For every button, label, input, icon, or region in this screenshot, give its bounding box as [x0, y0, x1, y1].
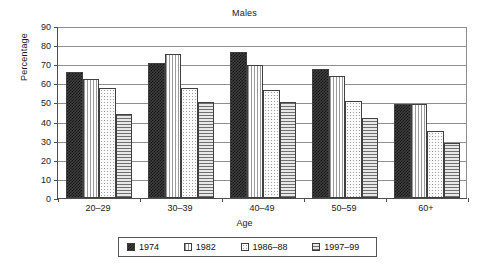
bar — [230, 52, 247, 198]
bar — [247, 65, 264, 198]
bar — [411, 104, 428, 198]
bar — [394, 104, 411, 198]
y-axis-tick-label: 20 — [41, 156, 51, 165]
bar — [181, 88, 198, 198]
plot-area: 0102030405060708090 — [57, 27, 467, 199]
chart-title: Males — [0, 8, 489, 18]
x-axis-tick — [58, 198, 59, 202]
bar-group — [222, 27, 304, 198]
bar-group — [386, 27, 468, 198]
bar — [148, 63, 165, 198]
x-axis-tick — [468, 198, 469, 202]
bar-group — [140, 27, 222, 198]
y-axis-tick-label: 70 — [41, 61, 51, 70]
legend-label: 1974 — [139, 242, 159, 252]
x-axis-category-label: 40–49 — [221, 203, 303, 213]
bar — [312, 69, 329, 198]
bar — [362, 118, 379, 198]
y-axis-tick-label: 30 — [41, 137, 51, 146]
bar — [444, 143, 461, 198]
legend-item: 1974 — [119, 242, 176, 252]
y-axis-tick-label: 60 — [41, 80, 51, 89]
legend-item: 1997–99 — [304, 242, 376, 252]
bar — [165, 54, 182, 198]
bar — [116, 114, 133, 198]
x-axis-category-label: 30–39 — [139, 203, 221, 213]
bar — [427, 131, 444, 198]
bar — [280, 102, 297, 199]
y-axis-label: Percentage — [19, 2, 29, 112]
y-axis-tick-label: 0 — [46, 195, 51, 204]
bar — [198, 102, 215, 198]
y-axis-tick-label: 10 — [41, 175, 51, 184]
y-axis-tick-label: 90 — [41, 23, 51, 32]
legend-swatch — [241, 243, 249, 251]
legend-item: 1982 — [176, 242, 233, 252]
x-axis-category-label: 60+ — [385, 203, 467, 213]
bar — [329, 76, 346, 198]
legend-swatch — [184, 243, 192, 251]
bar-group — [58, 27, 140, 198]
chart-container: Males Percentage 0102030405060708090 Age… — [0, 0, 489, 276]
y-axis-tick-label: 40 — [41, 118, 51, 127]
x-axis-category-label: 20–29 — [57, 203, 139, 213]
x-axis-tick — [386, 198, 387, 202]
legend-label: 1986–88 — [253, 242, 288, 252]
legend-swatch — [312, 243, 320, 251]
x-axis-label: Age — [0, 218, 489, 228]
y-axis-tick-label: 50 — [41, 99, 51, 108]
legend-label: 1997–99 — [324, 242, 359, 252]
bar — [83, 79, 100, 198]
x-axis-tick — [140, 198, 141, 202]
y-axis-tick-label: 80 — [41, 42, 51, 51]
bar — [263, 90, 280, 198]
legend-item: 1986–88 — [233, 242, 305, 252]
bar-group — [304, 27, 386, 198]
legend-label: 1982 — [196, 242, 216, 252]
x-axis-tick — [304, 198, 305, 202]
bar — [345, 101, 362, 198]
chart-legend: 197419821986–881997–99 — [118, 237, 377, 257]
x-axis-tick — [222, 198, 223, 202]
bar — [66, 72, 83, 198]
x-axis-category-label: 50–59 — [303, 203, 385, 213]
legend-swatch — [127, 243, 135, 251]
bar — [99, 88, 116, 198]
